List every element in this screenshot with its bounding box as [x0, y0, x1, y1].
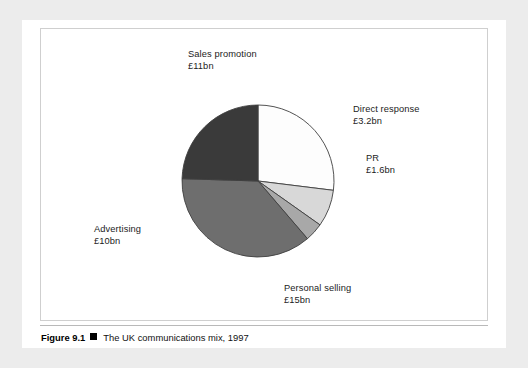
pie-label-pr: PR £1.6bn [366, 152, 395, 176]
pie-slice-sales-promotion [258, 105, 334, 190]
pie-label-direct-response-name: Direct response [353, 103, 420, 115]
figure-caption-text: The UK communications mix, 1997 [103, 332, 248, 343]
pie-label-advertising-name: Advertising [94, 223, 141, 235]
pie-label-direct-response-value: £3.2bn [353, 115, 420, 127]
pie-label-advertising: Advertising £10bn [94, 223, 141, 247]
pie-chart [0, 0, 528, 368]
caption-divider [40, 325, 488, 326]
figure-root: Sales promotion £11bn Direct response £3… [0, 0, 528, 368]
pie-label-pr-value: £1.6bn [366, 164, 395, 176]
pie-label-sales-promotion-value: £11bn [188, 60, 257, 72]
pie-label-personal-selling: Personal selling £15bn [284, 282, 351, 306]
square-bullet-icon [90, 333, 97, 340]
pie-slice-group [182, 105, 334, 257]
pie-label-personal-selling-value: £15bn [284, 294, 351, 306]
pie-label-sales-promotion-name: Sales promotion [188, 48, 257, 60]
pie-label-personal-selling-name: Personal selling [284, 282, 351, 294]
figure-number: Figure 9.1 [41, 332, 85, 343]
figure-caption: Figure 9.1The UK communications mix, 199… [41, 331, 491, 344]
pie-label-pr-name: PR [366, 152, 395, 164]
pie-label-sales-promotion: Sales promotion £11bn [188, 48, 257, 72]
pie-label-advertising-value: £10bn [94, 235, 141, 247]
pie-slice-advertising [182, 105, 258, 181]
pie-label-direct-response: Direct response £3.2bn [353, 103, 420, 127]
